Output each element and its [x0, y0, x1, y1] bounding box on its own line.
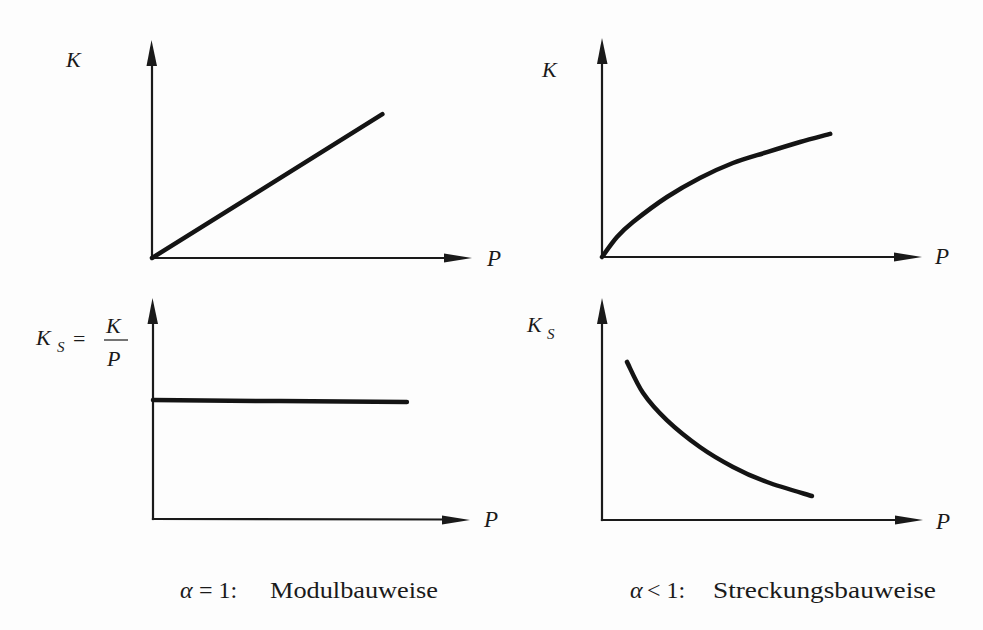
caption-label: Streckungsbauweise — [713, 577, 936, 603]
unit-cost-line — [153, 400, 407, 402]
caption-relation: = 1: — [199, 577, 237, 603]
equals-sign: = — [73, 326, 85, 351]
x-axis-arrow-icon — [442, 516, 470, 525]
x-axis-label: P — [486, 246, 501, 271]
y-label-subscript: S — [57, 339, 65, 355]
cost-curve — [602, 134, 830, 257]
y-label-k: K — [526, 312, 543, 337]
caption-alpha-symbol: α — [630, 577, 643, 603]
y-label-subscript: S — [547, 326, 555, 342]
x-axis-label: P — [935, 509, 950, 534]
cost-curves-figure: K P K P K S = K P — [0, 0, 983, 630]
cost-line — [152, 114, 382, 258]
panel-bottom-left: K S = K P P — [35, 298, 498, 532]
y-axis-arrow-icon — [147, 40, 158, 66]
panel-top-left: K P — [65, 40, 501, 271]
y-axis-arrow-icon — [597, 298, 608, 324]
y-axis-label: K — [541, 57, 558, 82]
unit-cost-curve — [627, 362, 812, 496]
caption-left: α = 1: Modulbauweise — [180, 577, 438, 603]
caption-label: Modulbauweise — [270, 577, 438, 603]
y-axis-arrow-icon — [148, 298, 159, 324]
fraction-denominator: P — [106, 346, 120, 371]
x-axis-arrow-icon — [444, 254, 472, 263]
caption-relation: < 1: — [647, 577, 685, 603]
caption-alpha-symbol: α — [180, 577, 193, 603]
fraction-numerator: K — [105, 313, 122, 338]
figure-canvas: K P K P K S = K P — [0, 0, 983, 630]
x-axis — [153, 519, 446, 520]
panel-top-right: K P — [541, 38, 949, 269]
y-axis-label-equation: K S = K P — [35, 313, 128, 371]
x-axis-label: P — [483, 507, 498, 532]
caption-right: α < 1: Streckungsbauweise — [630, 577, 936, 603]
x-axis-arrow-icon — [894, 253, 922, 262]
panel-bottom-right: K S P — [526, 298, 950, 534]
y-axis-label: K — [65, 47, 82, 72]
x-axis-arrow-icon — [895, 516, 923, 525]
x-axis-label: P — [934, 244, 949, 269]
y-label-k: K — [35, 325, 52, 350]
y-axis-arrow-icon — [597, 38, 608, 64]
